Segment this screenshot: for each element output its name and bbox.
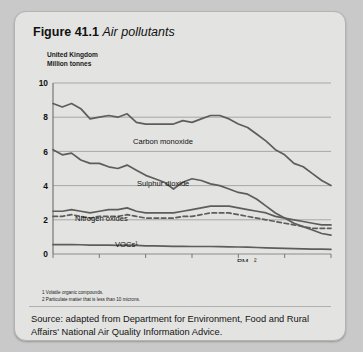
figure-card: Figure 41.1 Air pollutants United Kingdo… [14, 11, 346, 341]
y-tick-label: 8 [43, 112, 48, 122]
series-line-pm10 [53, 245, 331, 250]
series-label-sulphur-dioxide: Sulphur dioxide [137, 179, 189, 188]
x-tick-label: 1981 [136, 260, 155, 262]
line-chart-svg: 02468101971197619811986199119962001Carbo… [15, 12, 345, 262]
y-tick-label: 2 [43, 215, 48, 225]
footnote-2: 2 Particulate matter that is less than 1… [42, 297, 312, 304]
x-tick-label: 1971 [49, 260, 68, 262]
y-tick-label: 6 [43, 147, 48, 157]
footnotes: 1 Volatile organic compounds. 2 Particul… [42, 290, 312, 304]
series-label-pm10: PM₁₀² [237, 257, 257, 262]
chart-area: United Kingdom Million tonnes 0246810197… [15, 12, 345, 262]
x-tick-label: 2001 [316, 260, 335, 262]
footnote-1: 1 Volatile organic compounds. [42, 290, 312, 297]
series-label-nitrogen-oxides: Nitrogen oxides [75, 214, 128, 223]
y-tick-label: 0 [43, 249, 48, 259]
series-label-carbon-monoxide: Carbon monoxide [133, 137, 193, 146]
x-tick-label: 1986 [182, 260, 201, 262]
y-tick-label: 10 [39, 78, 49, 88]
divider [29, 306, 331, 307]
x-tick-label: 1996 [275, 260, 294, 262]
y-tick-label: 4 [43, 181, 48, 191]
x-tick-label: 1976 [90, 260, 109, 262]
source-note: Source: adapted from Department for Envi… [31, 313, 331, 339]
series-label-vocs: VOCs¹ [115, 240, 138, 249]
